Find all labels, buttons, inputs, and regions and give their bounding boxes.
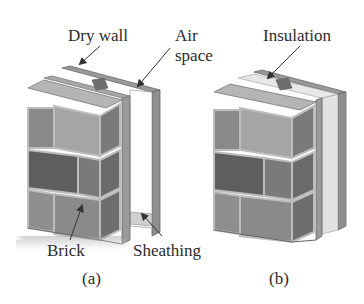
label-dry-wall: Dry wall xyxy=(68,27,128,44)
insulation-arrow xyxy=(268,46,300,78)
label-brick: Brick xyxy=(47,242,85,259)
panel-b-wall xyxy=(200,70,346,244)
label-sheathing: Sheathing xyxy=(133,242,201,259)
label-air: Air xyxy=(175,27,198,44)
drywall-panel xyxy=(152,90,160,236)
panel-a-wall xyxy=(14,66,160,250)
caption-a: (a) xyxy=(82,270,101,287)
insulation-layer xyxy=(322,94,338,234)
caption-b: (b) xyxy=(269,270,289,287)
sheathing-panel xyxy=(122,96,130,244)
label-space: space xyxy=(175,47,213,64)
air-space xyxy=(130,90,152,228)
air-space-arrow xyxy=(138,48,170,86)
drywall-arrow xyxy=(80,46,100,64)
label-insulation: Insulation xyxy=(263,27,331,44)
